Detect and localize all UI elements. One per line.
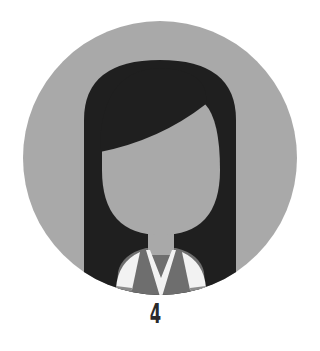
avatar-number-label: 4 <box>47 299 265 329</box>
